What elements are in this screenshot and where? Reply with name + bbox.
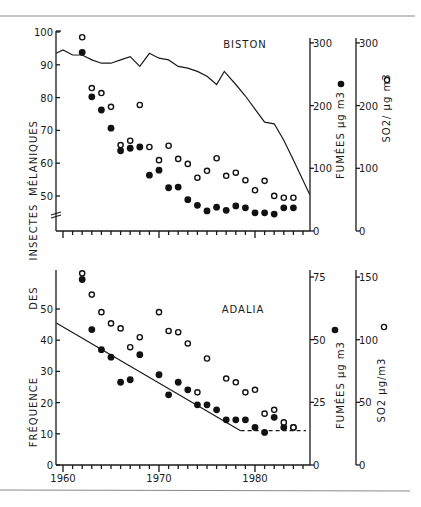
fumees-point <box>88 93 95 100</box>
so2-point <box>89 85 94 90</box>
fumees-point <box>184 196 191 203</box>
fumees-tick-label: 200 <box>313 101 332 112</box>
fumees-bottom-label: FUMÉES µg m3 <box>334 341 346 429</box>
fumees-legend-marker-bottom <box>332 327 339 334</box>
fumees-point <box>271 211 278 218</box>
so2-point <box>118 326 123 331</box>
x-tick-label: 1970 <box>146 473 171 484</box>
y-tick-label: 30 <box>40 366 53 377</box>
so2-point <box>214 156 219 161</box>
so2-point <box>224 173 229 178</box>
fumees-point <box>213 406 220 413</box>
fumees-point <box>165 184 172 191</box>
chart-canvas: 506070809010001002003000100200300 010203… <box>0 0 421 507</box>
fumees-point <box>232 203 239 210</box>
fumees-point <box>290 204 297 211</box>
so2-point <box>80 271 85 276</box>
so2-tick-label: 300 <box>359 38 378 49</box>
y-tick-label: 60 <box>40 158 53 169</box>
so2-point <box>195 390 200 395</box>
fumees-point <box>146 172 153 179</box>
fumees-point <box>252 424 259 431</box>
so2-tick-label: 100 <box>359 335 378 346</box>
so2-point <box>166 328 171 333</box>
so2-point <box>128 138 133 143</box>
x-tick-label: 1960 <box>50 473 75 484</box>
frequency-line <box>56 323 240 431</box>
so2-tick-label: 0 <box>359 226 365 237</box>
fumees-point <box>88 326 95 333</box>
so2-point <box>262 411 267 416</box>
so2-point <box>204 168 209 173</box>
fumees-point <box>242 204 249 211</box>
so2-legend-marker-bottom <box>381 324 386 329</box>
fumees-tick-label: 0 <box>313 460 319 471</box>
so2-point <box>128 345 133 350</box>
biston-panel: 506070809010001002003000100200300 <box>34 27 378 238</box>
figure: 506070809010001002003000100200300 010203… <box>0 0 421 507</box>
so2-point <box>108 321 113 326</box>
y-tick-label: 10 <box>40 429 53 440</box>
ylabel-insectes: INSECTES <box>28 204 39 261</box>
fumees-point <box>194 202 201 209</box>
y-tick-label: 50 <box>40 304 53 315</box>
so2-point <box>185 161 190 166</box>
so2-point <box>176 156 181 161</box>
fumees-tick-label: 300 <box>313 38 332 49</box>
so2-tick-label: 50 <box>359 397 372 408</box>
so2-point <box>147 144 152 149</box>
so2-point <box>156 158 161 163</box>
y-tick-label: 80 <box>40 93 53 104</box>
fumees-point <box>127 145 134 152</box>
fumees-point <box>79 276 86 283</box>
fumees-point <box>136 144 143 151</box>
so2-point <box>166 143 171 148</box>
so2-point <box>176 330 181 335</box>
so2-point <box>243 178 248 183</box>
so2-bottom-label: SO2 µg/m3 <box>376 358 387 423</box>
so2-point <box>252 387 257 392</box>
fumees-point <box>261 429 268 436</box>
y-tick-label: 70 <box>40 125 53 136</box>
ylabel-frequence: FRÉQUENCE <box>27 377 39 447</box>
fumees-point <box>194 401 201 408</box>
so2-point <box>243 390 248 395</box>
so2-point <box>108 104 113 109</box>
x-tick-label: 1980 <box>242 473 267 484</box>
so2-point <box>89 292 94 297</box>
bottom-rule <box>0 490 410 491</box>
fumees-point <box>204 401 211 408</box>
fumees-tick-label: 0 <box>313 226 319 237</box>
fumees-point <box>156 167 163 174</box>
so2-point <box>99 90 104 95</box>
fumees-point <box>117 379 124 386</box>
fumees-point <box>252 209 259 216</box>
fumees-point <box>79 49 86 56</box>
fumees-point <box>175 379 182 386</box>
so2-tick-label: 150 <box>359 272 378 283</box>
so2-point <box>118 143 123 148</box>
so2-point <box>272 193 277 198</box>
y-tick-label: 100 <box>34 27 53 38</box>
fumees-point <box>204 208 211 215</box>
adalia-title: ADALIA <box>222 304 265 315</box>
fumees-point <box>242 416 249 423</box>
so2-point <box>291 425 296 430</box>
fumees-point <box>98 346 105 353</box>
y-tick-label: 50 <box>40 191 53 202</box>
so2-point <box>137 335 142 340</box>
so2-point <box>185 341 190 346</box>
fumees-point <box>213 204 220 211</box>
y-tick-label: 0 <box>47 460 53 471</box>
y-tick-label: 20 <box>40 398 53 409</box>
so2-point <box>262 178 267 183</box>
adalia-panel: 010203040500255075050100150196019701980 <box>40 270 378 484</box>
fumees-point <box>98 107 105 114</box>
fumees-top-label: FUMÉES µg m3 <box>334 91 346 179</box>
fumees-point <box>232 416 239 423</box>
so2-point <box>233 170 238 175</box>
shared-labels: FRÉQUENCE DES INSECTES MÉLANIQUES BISTON… <box>27 39 392 447</box>
ylabel-des: DES <box>28 286 39 309</box>
biston-title: BISTON <box>223 39 267 50</box>
fumees-point <box>165 391 172 398</box>
